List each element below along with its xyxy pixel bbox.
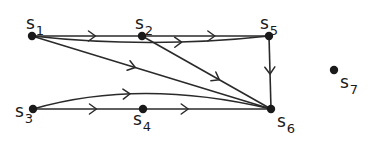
edge-s5-s6	[265, 36, 275, 109]
node-label-s3: s3	[15, 101, 33, 126]
edge-s1-s6	[32, 36, 271, 109]
label-base: s	[277, 111, 286, 131]
edge-line	[33, 94, 271, 110]
label-base: s	[133, 109, 142, 129]
labels: s1s2s3s4s5s6s7	[15, 13, 358, 136]
label-subscript: 6	[287, 121, 295, 136]
edge-s1-s2	[32, 31, 142, 41]
node-label-s5: s5	[260, 13, 278, 38]
label-subscript: 5	[270, 23, 278, 38]
label-base: s	[135, 13, 144, 33]
nodes	[28, 32, 338, 113]
label-base: s	[26, 13, 35, 33]
label-base: s	[260, 13, 269, 33]
edge-s3-s4	[33, 104, 143, 114]
edge-s3-s6	[33, 89, 271, 109]
label-subscript: 4	[143, 119, 151, 134]
node-s7	[330, 66, 338, 74]
label-subscript: 2	[145, 23, 153, 38]
edge-s2-s5	[142, 31, 269, 41]
edge-line	[32, 36, 271, 109]
directed-graph: s1s2s3s4s5s6s7	[0, 0, 379, 148]
node-label-s2: s2	[135, 13, 153, 38]
label-base: s	[340, 72, 349, 92]
node-label-s7: s7	[340, 72, 358, 97]
node-s6	[267, 105, 275, 113]
label-subscript: 1	[36, 23, 44, 38]
label-base: s	[15, 101, 24, 121]
label-subscript: 3	[25, 111, 33, 126]
node-label-s6: s6	[277, 111, 295, 136]
edges	[32, 31, 275, 114]
label-subscript: 7	[350, 82, 358, 97]
